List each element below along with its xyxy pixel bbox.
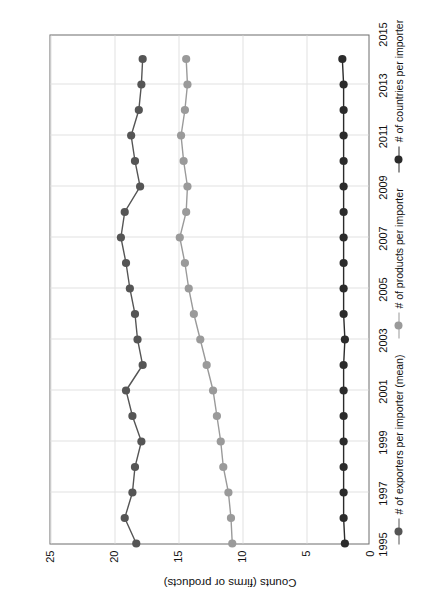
y-tick-label: 0 (363, 550, 375, 574)
data-point (116, 233, 124, 241)
data-point (339, 258, 347, 266)
data-point (130, 462, 138, 470)
x-tick-label: 2013 (376, 73, 388, 97)
x-tick-label: 2007 (376, 226, 388, 250)
data-point (340, 539, 348, 547)
data-point (339, 284, 347, 292)
data-point (339, 207, 347, 215)
legend-marker-icon (392, 146, 404, 172)
data-point (339, 513, 347, 521)
data-point (179, 156, 187, 164)
data-point (133, 335, 141, 343)
data-point (339, 182, 347, 190)
data-point (196, 335, 204, 343)
data-point (338, 54, 346, 62)
data-point (339, 360, 347, 368)
data-point (137, 80, 145, 88)
data-point (120, 513, 128, 521)
data-point (226, 513, 234, 521)
series-line (120, 59, 142, 544)
data-point (339, 309, 347, 317)
x-tick-label: 2005 (376, 277, 388, 301)
y-axis-label: Counts (firms or products) (163, 576, 296, 588)
data-point (138, 54, 146, 62)
data-point (182, 54, 190, 62)
x-tick-label: 1997 (376, 481, 388, 505)
data-point (180, 258, 188, 266)
data-point (136, 182, 144, 190)
plot-area (49, 34, 369, 544)
data-point (339, 411, 347, 419)
data-point (340, 335, 348, 343)
legend-entry-1[interactable]: # of exporters per importer (mean) (392, 354, 404, 544)
y-tick-label: 25 (43, 550, 55, 574)
legend-label: # of products per importer (393, 188, 404, 308)
data-point (228, 539, 236, 547)
data-point (339, 437, 347, 445)
legend: # of exporters per importer (mean)# of p… (392, 34, 404, 544)
x-tick-label: 2003 (376, 328, 388, 352)
series-1 (116, 54, 146, 547)
data-point (339, 156, 347, 164)
data-point (219, 462, 227, 470)
x-tick-label: 2015 (376, 22, 388, 46)
rotated-figure-wrapper: 1995199719992001200320052007200920112013… (0, 0, 433, 606)
y-tick-label: 5 (299, 550, 311, 574)
data-point (216, 437, 224, 445)
data-point (202, 360, 210, 368)
data-point (183, 182, 191, 190)
data-point (130, 309, 138, 317)
data-point (339, 131, 347, 139)
data-point (183, 80, 191, 88)
legend-marker-icon (392, 518, 404, 544)
x-tick-label: 1995 (376, 532, 388, 556)
legend-label: # of countries per importer (393, 19, 404, 142)
data-point (134, 105, 142, 113)
legend-entry-3[interactable]: # of countries per importer (392, 19, 404, 172)
series-layer (50, 33, 370, 543)
data-point (339, 105, 347, 113)
data-point (189, 309, 197, 317)
data-point (176, 131, 184, 139)
data-point (138, 360, 146, 368)
data-point (121, 258, 129, 266)
data-point (339, 488, 347, 496)
data-point (128, 488, 136, 496)
figure: 1995199719992001200320052007200920112013… (0, 0, 433, 606)
data-point (137, 437, 145, 445)
data-point (339, 233, 347, 241)
data-point (339, 386, 347, 394)
data-point (339, 462, 347, 470)
data-point (128, 411, 136, 419)
legend-marker-icon (392, 312, 404, 338)
data-point (125, 284, 133, 292)
data-point (208, 386, 216, 394)
chart-page: 1995199719992001200320052007200920112013… (0, 0, 433, 606)
data-point (182, 207, 190, 215)
data-point (130, 156, 138, 164)
data-point (224, 488, 232, 496)
x-tick-label: 1999 (376, 430, 388, 454)
x-tick-label: 2011 (376, 124, 388, 148)
data-point (175, 233, 183, 241)
legend-label: # of exporters per importer (mean) (393, 354, 404, 514)
y-tick-label: 10 (235, 550, 247, 574)
x-tick-label: 2009 (376, 175, 388, 199)
y-tick-label: 15 (171, 550, 183, 574)
data-point (180, 105, 188, 113)
data-point (127, 131, 135, 139)
x-tick-label: 2001 (376, 379, 388, 403)
data-point (132, 539, 140, 547)
series-2 (175, 54, 236, 547)
data-point (212, 411, 220, 419)
y-tick-label: 20 (107, 550, 119, 574)
data-point (184, 284, 192, 292)
legend-entry-2[interactable]: # of products per importer (392, 188, 404, 338)
series-3 (338, 54, 349, 547)
data-point (339, 80, 347, 88)
